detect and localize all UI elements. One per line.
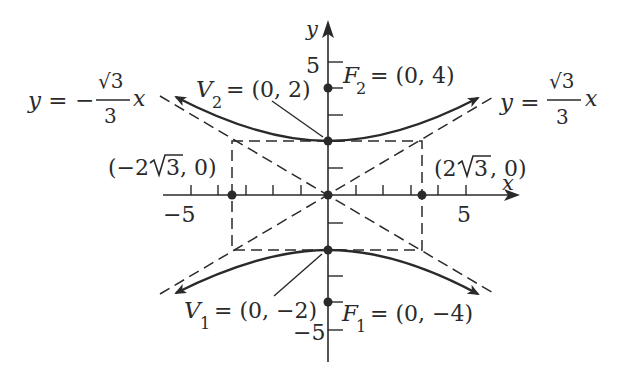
- v1-leader-line: [274, 254, 322, 296]
- svg-text:y =: y =: [499, 89, 540, 115]
- y-axis: [322, 20, 343, 362]
- f2-label: F 2 = (0, 4): [342, 62, 455, 98]
- right-asymptote-label: y = √3 3 x: [499, 69, 598, 129]
- v1-point: [324, 246, 333, 255]
- svg-text:1: 1: [356, 317, 366, 336]
- v2-point: [324, 137, 333, 146]
- left-point: [228, 191, 237, 200]
- svg-text:= (0, 4): = (0, 4): [370, 63, 455, 88]
- svg-text:1: 1: [200, 314, 210, 333]
- v2-label: V 2 = (0, 2): [196, 76, 311, 112]
- y-tick-label-neg5: −5: [293, 320, 325, 345]
- svg-text:(2: (2: [434, 156, 457, 181]
- x-tick-label-5: 5: [457, 202, 471, 227]
- origin-point: [324, 191, 333, 200]
- left-asymptote-label: y = − √3 3 x: [27, 69, 146, 128]
- svg-text:x: x: [585, 86, 598, 111]
- v2-leader-line: [272, 101, 323, 137]
- svg-text:= (0, 2): = (0, 2): [226, 77, 311, 102]
- svg-text:3: 3: [474, 156, 488, 181]
- f2-point: [324, 84, 333, 93]
- svg-text:x: x: [133, 86, 146, 111]
- y-axis-label: y: [305, 17, 319, 41]
- hyperbola-diagram: y x −5 5 5 −5 V 2 = (0, 2) F 2 = (0, 4) …: [0, 0, 622, 373]
- svg-text:3: 3: [104, 104, 117, 128]
- svg-text:√3: √3: [98, 69, 123, 93]
- upper-branch-left: [176, 97, 328, 141]
- svg-text:3: 3: [556, 105, 569, 129]
- svg-text:2: 2: [212, 93, 222, 112]
- lower-branch-right: [328, 250, 478, 294]
- left-point-label: (−2 3 , 0): [108, 155, 217, 180]
- y-tick-label-5: 5: [306, 53, 320, 78]
- svg-text:√3: √3: [549, 69, 574, 93]
- svg-text:(−2: (−2: [108, 155, 149, 180]
- svg-text:, 0): , 0): [490, 156, 527, 181]
- right-point-label: (2 3 , 0): [434, 156, 527, 181]
- svg-text:= (0, −4): = (0, −4): [370, 301, 473, 326]
- svg-text:y = −: y = −: [27, 87, 94, 113]
- f1-point: [324, 298, 333, 307]
- right-point: [418, 191, 427, 200]
- x-tick-label-neg5: −5: [163, 202, 195, 227]
- svg-text:3: 3: [166, 155, 180, 180]
- svg-text:= (0, −2): = (0, −2): [214, 298, 317, 323]
- svg-text:, 0): , 0): [180, 155, 217, 180]
- svg-text:2: 2: [356, 79, 366, 98]
- f1-label: F 1 = (0, −4): [341, 300, 473, 336]
